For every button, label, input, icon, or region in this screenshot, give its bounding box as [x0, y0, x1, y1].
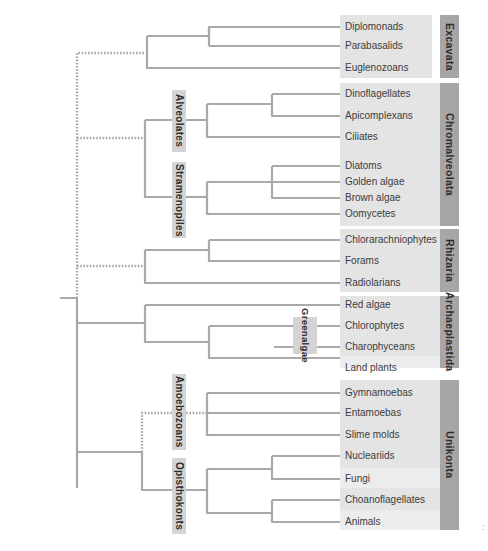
taxon-label: Gymnamoebas [345, 387, 413, 399]
taxon-label: Forams [345, 255, 379, 267]
clade-tag-alveolates: Alveolates [172, 90, 186, 152]
taxon-label: Ciliates [345, 131, 378, 143]
footnote-mark: : [482, 522, 485, 532]
band-chromalveolata [340, 83, 440, 226]
taxon-label: Fungi [345, 473, 370, 485]
taxon-label: Dinoflagellates [345, 88, 411, 100]
green-algae-line-2: algae [300, 337, 310, 363]
clade-tag-green-algae: Green algae [293, 317, 317, 354]
taxon-label: Chlorarachniophytes [345, 234, 437, 246]
uncertain-root-excavata [77, 53, 145, 298]
taxon-label: Diplomonads [345, 21, 403, 33]
group-label-rhizaria: Rhizaria [440, 229, 459, 292]
clade-tag-opisthokonts: Opisthokonts [172, 458, 186, 534]
group-label-archaeplastida: Archaeplastida [440, 296, 459, 368]
taxon-label: Diatoms [345, 160, 382, 172]
taxon-label: Charophyceans [345, 341, 415, 353]
taxon-label: Land plants [345, 362, 397, 374]
group-label-chromalveolata: Chromalveolata [440, 83, 459, 226]
clade-tag-stramenopiles: Stramenopiles [172, 162, 186, 238]
root-branch [60, 298, 77, 488]
taxon-label: Parabasalids [345, 40, 403, 52]
taxon-label: Euglenozoans [345, 62, 408, 74]
group-label-unikonta: Unikonta [440, 380, 459, 530]
taxon-label: Apicomplexans [345, 110, 413, 122]
taxon-label: Oomycetes [345, 208, 396, 220]
taxon-label: Nucleariids [345, 450, 394, 462]
group-label-excavata: Excavata [440, 15, 459, 78]
taxon-label: Brown algae [345, 192, 401, 204]
taxon-label: Red algae [345, 299, 391, 311]
clade-tag-amoebozoans: Amoebozoans [172, 374, 186, 450]
taxon-label: Radiolarians [345, 277, 401, 289]
green-algae-line-1: Green [300, 308, 310, 337]
taxon-label: Chlorophytes [345, 320, 404, 332]
taxon-label: Animals [345, 516, 381, 528]
taxon-label: Choanoflagellates [345, 494, 425, 506]
taxon-label: Golden algae [345, 176, 405, 188]
taxon-label: Entamoebas [345, 407, 401, 419]
taxon-label: Slime molds [345, 429, 399, 441]
